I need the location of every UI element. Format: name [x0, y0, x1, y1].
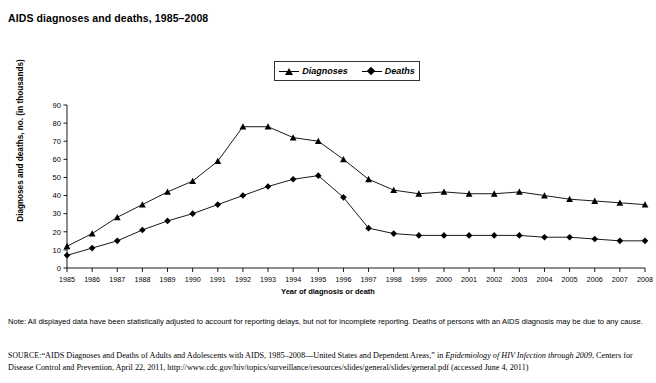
svg-text:2001: 2001: [461, 275, 477, 284]
svg-text:1987: 1987: [109, 275, 125, 284]
line-chart-svg: 0102030405060708090198519861987198819891…: [0, 48, 656, 306]
x-axis-label: Year of diagnosis or death: [0, 287, 656, 296]
svg-text:1995: 1995: [310, 275, 326, 284]
y-axis-label: Diagnoses and deaths, no. (in thousands): [16, 51, 25, 231]
svg-text:1990: 1990: [185, 275, 201, 284]
plot-wrapper: 0102030405060708090198519861987198819891…: [0, 48, 656, 306]
svg-text:1994: 1994: [285, 275, 301, 284]
svg-text:1989: 1989: [160, 275, 176, 284]
figure-source: SOURCE:“AIDS Diagnoses and Deaths of Adu…: [8, 350, 648, 373]
data-series: [64, 123, 649, 258]
svg-text:1985: 1985: [59, 275, 75, 284]
svg-text:50: 50: [53, 173, 61, 182]
svg-text:2003: 2003: [511, 275, 527, 284]
svg-text:2008: 2008: [637, 275, 653, 284]
svg-text:70: 70: [53, 137, 61, 146]
svg-text:60: 60: [53, 155, 61, 164]
page-title: AIDS diagnoses and deaths, 1985–2008: [8, 12, 208, 24]
svg-text:2004: 2004: [536, 275, 552, 284]
svg-text:1993: 1993: [260, 275, 276, 284]
svg-text:30: 30: [53, 209, 61, 218]
svg-text:20: 20: [53, 228, 61, 237]
svg-text:10: 10: [53, 246, 61, 255]
svg-text:1998: 1998: [386, 275, 402, 284]
svg-text:1992: 1992: [235, 275, 251, 284]
svg-text:40: 40: [53, 191, 61, 200]
svg-text:2007: 2007: [612, 275, 628, 284]
svg-text:2006: 2006: [587, 275, 603, 284]
axes: 0102030405060708090198519861987198819891…: [53, 101, 653, 284]
source-publication-title: Epidemiology of HIV Infection through 20…: [445, 351, 592, 360]
svg-text:0: 0: [57, 264, 61, 273]
svg-text:90: 90: [53, 101, 61, 110]
svg-text:1986: 1986: [84, 275, 100, 284]
svg-text:2000: 2000: [436, 275, 452, 284]
svg-text:1997: 1997: [361, 275, 377, 284]
svg-text:1996: 1996: [335, 275, 351, 284]
source-label: SOURCE:: [8, 351, 41, 360]
svg-text:80: 80: [53, 119, 61, 128]
chart-area: Diagnoses Deaths 01020304050607080901985…: [0, 48, 656, 306]
svg-text:1988: 1988: [134, 275, 150, 284]
source-text-part1: “AIDS Diagnoses and Deaths of Adults and…: [41, 351, 445, 360]
figure-note: Note: All displayed data have been stati…: [8, 316, 648, 327]
svg-text:1999: 1999: [411, 275, 427, 284]
svg-text:1991: 1991: [210, 275, 226, 284]
svg-text:2002: 2002: [486, 275, 502, 284]
svg-text:2005: 2005: [562, 275, 578, 284]
figure-page: AIDS diagnoses and deaths, 1985–2008 Dia…: [0, 0, 656, 383]
